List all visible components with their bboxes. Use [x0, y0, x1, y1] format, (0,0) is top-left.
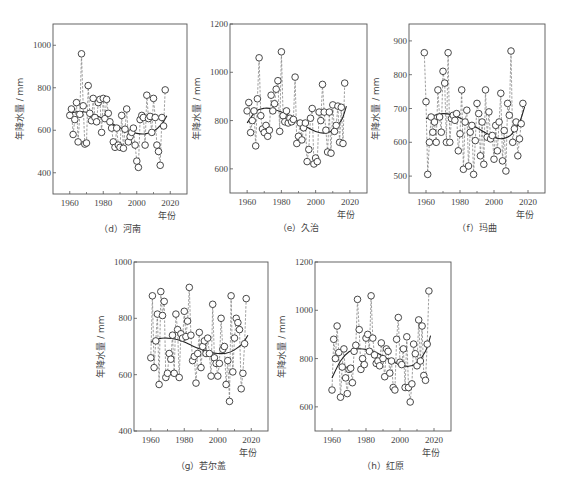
data-point — [268, 92, 275, 99]
data-point — [410, 341, 417, 348]
y-tick-label: 1200 — [210, 19, 229, 29]
data-point — [477, 153, 484, 160]
y-axis-label: 年降水量 / mm — [370, 77, 381, 139]
data-point — [266, 127, 273, 134]
x-tick-label: 2020 — [242, 435, 261, 445]
data-point — [328, 150, 335, 157]
data-point — [228, 293, 235, 300]
data-point — [235, 319, 242, 326]
data-point — [184, 318, 191, 325]
data-point — [511, 126, 518, 133]
data-point — [299, 137, 306, 144]
y-axis-label: 年降水量 / mm — [191, 77, 202, 139]
data-point — [440, 68, 447, 75]
data-point — [256, 55, 263, 62]
data-point — [73, 99, 80, 106]
data-point — [506, 112, 513, 119]
data-point — [470, 171, 477, 178]
data-point — [472, 137, 479, 144]
data-point — [371, 352, 378, 359]
data-point — [80, 103, 87, 110]
data-point — [504, 100, 511, 107]
x-tick-label: 1980 — [272, 197, 291, 207]
data-point — [398, 361, 405, 368]
y-tick-label: 800 — [215, 116, 229, 126]
x-tick-label: 2000 — [209, 435, 228, 445]
data-point — [264, 133, 271, 140]
data-point — [438, 129, 445, 136]
data-point — [496, 119, 503, 126]
data-point — [194, 350, 201, 357]
data-point — [68, 106, 75, 113]
data-point — [249, 117, 256, 124]
data-point — [188, 332, 195, 339]
x-axis-label: 年份 — [158, 210, 176, 221]
data-point — [142, 142, 149, 149]
data-point — [323, 127, 330, 134]
y-tick-label: 600 — [38, 125, 52, 135]
x-tick-label: 2000 — [485, 197, 504, 207]
data-point — [107, 119, 114, 126]
data-point — [236, 326, 243, 333]
data-point — [123, 106, 130, 113]
data-point — [168, 356, 175, 363]
data-point — [501, 127, 508, 134]
data-point — [412, 350, 419, 357]
data-point — [393, 336, 400, 343]
plot-frame — [230, 24, 367, 193]
data-point — [122, 126, 129, 133]
data-point — [339, 364, 346, 371]
data-point — [433, 139, 440, 146]
data-point — [518, 120, 525, 127]
data-point — [193, 380, 200, 387]
data-point — [209, 301, 216, 308]
data-point — [204, 335, 211, 342]
data-point — [75, 139, 82, 146]
data-point — [423, 98, 430, 105]
data-point — [340, 140, 347, 147]
data-point — [251, 108, 258, 115]
y-tick-label: 600 — [215, 164, 229, 174]
x-tick-label: 1960 — [238, 197, 257, 207]
x-tick-label: 1980 — [357, 435, 376, 445]
data-point — [151, 364, 158, 371]
data-point — [380, 355, 387, 362]
data-point — [435, 87, 442, 94]
data-point — [356, 326, 363, 333]
data-point — [462, 119, 469, 126]
y-tick-label: 1200 — [295, 257, 314, 267]
data-point — [419, 323, 426, 330]
data-point — [404, 334, 411, 341]
data-point — [278, 49, 285, 56]
chart-e: 600800100012001960198020002020年降水量 / mm年… — [191, 19, 367, 233]
data-point — [479, 119, 486, 126]
data-point — [246, 99, 253, 106]
x-tick-label: 2020 — [341, 197, 360, 207]
data-point — [482, 87, 489, 94]
data-point — [216, 360, 223, 367]
x-tick-label: 1960 — [61, 198, 80, 208]
data-point — [330, 336, 337, 343]
y-tick-label: 500 — [394, 171, 408, 181]
data-point — [447, 139, 454, 146]
data-point — [169, 332, 176, 339]
data-point — [273, 86, 280, 93]
x-tick-label: 2000 — [391, 435, 410, 445]
data-point — [455, 148, 462, 155]
y-axis-label: 年降水量 / mm — [95, 315, 106, 377]
data-point — [368, 293, 375, 300]
data-point — [149, 293, 156, 300]
data-point — [132, 142, 139, 149]
data-point — [70, 131, 77, 138]
data-point — [361, 361, 368, 368]
data-point — [426, 139, 433, 146]
y-tick-label: 600 — [119, 370, 133, 380]
chart-caption: （f）玛曲 — [457, 223, 496, 233]
data-point — [252, 143, 259, 150]
data-point — [135, 164, 142, 171]
chart-caption: （d）河南 — [99, 223, 141, 234]
data-point — [247, 129, 254, 136]
y-tick-label: 1000 — [114, 257, 133, 267]
y-tick-label: 800 — [300, 354, 314, 364]
y-axis-label: 年降水量 / mm — [276, 315, 287, 377]
